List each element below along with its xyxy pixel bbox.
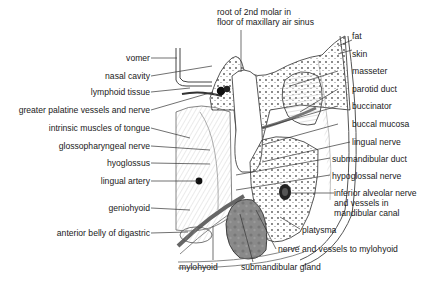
- label-intrinsic-muscles-of-tongue: intrinsic muscles of tongue: [49, 123, 150, 133]
- label-root-of-2nd-molar: root of 2nd molar in floor of maxillary …: [217, 7, 314, 27]
- label-vomer: vomer: [126, 53, 150, 63]
- label-root-line-2: floor of maxillary air sinus: [217, 17, 314, 27]
- label-parotid-duct: parotid duct: [352, 84, 397, 94]
- label-geniohyoid: geniohyoid: [108, 203, 150, 213]
- label-fat: fat: [352, 31, 362, 41]
- label-mylohyoid: mylohyoid: [179, 262, 218, 272]
- label-masseter: masseter: [352, 66, 387, 76]
- label-hypoglossal-nerve: hypoglossal nerve: [332, 171, 401, 181]
- label-nerve-and-vessels-to-mylohyoid: nerve and vessels to mylohyoid: [278, 244, 398, 254]
- label-root-line-1: root of 2nd molar in: [217, 7, 314, 17]
- label-lymphoid-tissue: lymphoid tissue: [91, 87, 150, 97]
- label-anterior-belly-of-digastric: anterior belly of digastric: [57, 228, 150, 238]
- label-lingual-artery: lingual artery: [101, 176, 150, 186]
- label-nasal-cavity: nasal cavity: [105, 71, 150, 81]
- label-platysma: platysma: [302, 225, 336, 235]
- label-skin: skin: [352, 49, 367, 59]
- label-submandibular-gland: submandibular gland: [241, 262, 321, 272]
- label-lingual-nerve: lingual nerve: [352, 137, 401, 147]
- label-submandibular-duct: submandibular duct: [332, 154, 407, 164]
- label-buccal-mucosa: buccal mucosa: [352, 119, 409, 129]
- anatomy-diagram: vomer nasal cavity lymphoid tissue great…: [0, 0, 426, 281]
- label-glossopharyngeal-nerve: glossopharyngeal nerve: [59, 141, 150, 151]
- label-inferior-alveolar-nerve: inferior alveolar nerve and vessels in m…: [334, 188, 417, 218]
- label-greater-palatine-vessels-and-nerve: greater palatine vessels and nerve: [19, 105, 150, 115]
- label-buccinator: buccinator: [352, 101, 392, 111]
- label-inferior-alveolar-line-3: mandibular canal: [334, 208, 417, 218]
- label-hyoglossus: hyoglossus: [107, 158, 150, 168]
- label-inferior-alveolar-line-2: and vessels in: [334, 198, 417, 208]
- label-inferior-alveolar-line-1: inferior alveolar nerve: [334, 188, 417, 198]
